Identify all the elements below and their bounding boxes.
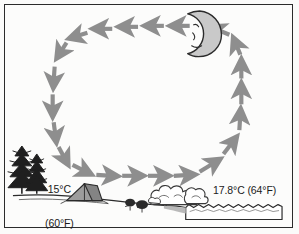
- water-temperature-label: 17.8°C (64°F): [213, 185, 276, 196]
- lake-water: [186, 205, 282, 220]
- crescent-moon: [188, 11, 222, 57]
- figure-frame: 15°C (60°F) 17.8°C (64°F): [4, 4, 293, 228]
- mist-wisp: [149, 197, 161, 203]
- moon-face-icon: [192, 24, 202, 47]
- bottom-flow-arrows: [73, 165, 190, 176]
- figure-container: 15°C (60°F) 17.8°C (64°F): [0, 0, 299, 234]
- shore-shrubs: [125, 199, 148, 213]
- top-flow-arrows: [75, 26, 190, 37]
- pine-trees: [8, 146, 48, 194]
- land-temp-celsius: 15°C: [45, 184, 74, 195]
- top-left-corner-arrows: [60, 43, 67, 54]
- bottom-right-corner-arrows: [200, 141, 234, 172]
- right-ascending-arrows: [235, 43, 241, 130]
- land-temperature-label: 15°C (60°F): [45, 161, 74, 234]
- land-temp-fahrenheit: (60°F): [45, 218, 74, 229]
- left-descending-arrows: [53, 67, 66, 160]
